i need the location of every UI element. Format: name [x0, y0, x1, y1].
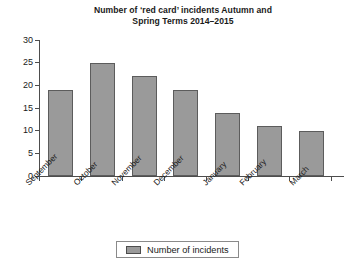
legend-label-incidents: Number of incidents [147, 245, 229, 255]
plot-area: 0 5 10 15 20 25 30 [39, 40, 344, 177]
y-tick-label-20: 20 [23, 80, 33, 89]
y-tick-label-15: 15 [23, 103, 33, 112]
y-tick-30 [35, 40, 39, 41]
y-tick-10 [35, 130, 39, 131]
y-tick-25 [35, 62, 39, 63]
y-tick-label-5: 5 [28, 149, 33, 158]
y-tick-label-30: 30 [23, 36, 33, 45]
bar-chart: Number of ‘red card’ incidents Autumn an… [0, 0, 360, 268]
y-tick-label-25: 25 [23, 57, 33, 66]
chart-title-line-2: Spring Terms 2014–2015 [30, 16, 336, 27]
bars-layer [40, 40, 344, 176]
y-tick-label-10: 10 [23, 126, 33, 135]
legend: Number of incidents [116, 241, 239, 258]
chart-title: Number of ‘red card’ incidents Autumn an… [30, 5, 336, 28]
y-tick-20 [35, 85, 39, 86]
x-tick-boundary-7 [331, 177, 332, 181]
bar-october[interactable] [90, 63, 115, 176]
y-tick-15 [35, 108, 39, 109]
legend-swatch-incidents [126, 246, 141, 254]
chart-title-line-1: Number of ‘red card’ incidents Autumn an… [30, 5, 336, 16]
y-tick-5 [35, 153, 39, 154]
